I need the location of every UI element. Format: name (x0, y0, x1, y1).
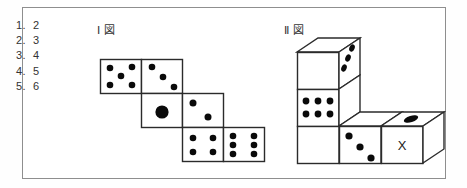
figure-panel: 1. 2 2. 3 3. 4 4. 5 5. 6 Ⅰ 図 Ⅱ 図 (0, 0, 467, 188)
cube-top-front (298, 53, 340, 90)
figure-2-dice-solid: X (0, 0, 467, 188)
cube-bottom-front (298, 127, 340, 164)
marked-face-label: X (398, 138, 407, 153)
cube-middle-front (298, 90, 340, 127)
